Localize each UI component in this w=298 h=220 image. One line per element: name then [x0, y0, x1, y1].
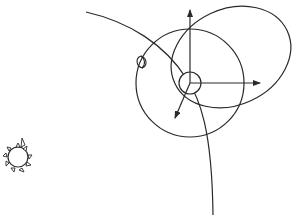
sun-icon	[3, 138, 32, 172]
moon-crescent-icon	[137, 56, 146, 68]
orbital-diagram	[0, 0, 298, 220]
elliptical-orbit	[155, 0, 298, 127]
trajectory-curve	[86, 12, 213, 215]
